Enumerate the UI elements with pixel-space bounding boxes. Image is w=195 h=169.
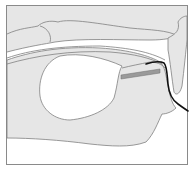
diagram-figure: [0, 0, 195, 169]
anatomy-diagram: [0, 0, 195, 169]
